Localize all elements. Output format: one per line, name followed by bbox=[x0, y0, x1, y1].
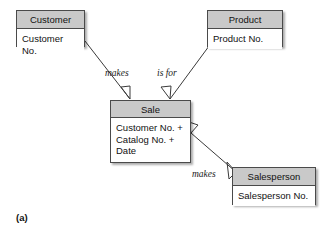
entity-attributes-customer: Customer No. bbox=[17, 29, 84, 60]
entity-box-salesperson[interactable]: Salesperson Salesperson No. bbox=[232, 167, 316, 205]
er-diagram-figure: Customer Customer No. Product Product No… bbox=[0, 0, 332, 236]
entity-title-customer: Customer bbox=[17, 11, 84, 29]
entity-box-customer[interactable]: Customer Customer No. bbox=[16, 10, 85, 47]
figure-caption: (a) bbox=[16, 213, 28, 223]
relationship-label-sale-is-for-product: is for bbox=[157, 69, 177, 79]
entity-box-sale[interactable]: Sale Customer No. + Catalog No. + Date bbox=[110, 100, 191, 163]
entity-title-product: Product bbox=[208, 11, 282, 29]
entity-title-salesperson: Salesperson bbox=[233, 168, 315, 186]
relationship-label-customer-makes-sale: makes bbox=[105, 69, 129, 79]
entity-box-product[interactable]: Product Product No. bbox=[207, 10, 283, 47]
entity-attributes-salesperson: Salesperson No. bbox=[233, 186, 315, 206]
entity-attributes-sale: Customer No. + Catalog No. + Date bbox=[111, 118, 190, 161]
entity-attributes-product: Product No. bbox=[208, 29, 282, 49]
entity-title-sale: Sale bbox=[111, 101, 190, 118]
relationship-label-sale-makes-salesperson: makes bbox=[192, 170, 216, 180]
